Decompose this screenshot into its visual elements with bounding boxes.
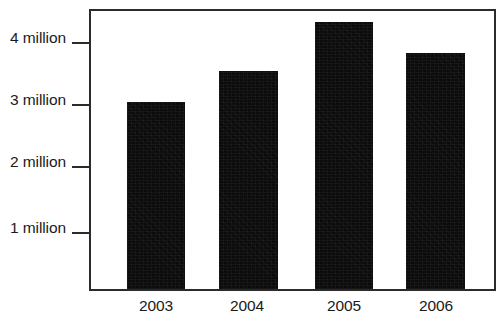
- y-axis-tick-3-million: 3 million: [0, 89, 89, 111]
- x-axis-tick-label: 2004: [230, 297, 264, 315]
- bars-layer: [91, 11, 494, 289]
- y-axis-tick-1-million: 1 million: [0, 217, 89, 239]
- x-axis-tick-2004: 2004: [208, 294, 286, 318]
- y-axis-tick-2-million: 2 million: [0, 151, 89, 173]
- bar-2004: [219, 71, 278, 289]
- y-axis-tick-mark-icon: [72, 42, 89, 44]
- x-axis-tick-2003: 2003: [117, 294, 195, 318]
- x-axis-tick-2005: 2005: [305, 294, 383, 318]
- y-axis-tick-label: 3 million: [10, 91, 66, 109]
- x-axis-tick-label: 2003: [139, 297, 173, 315]
- x-axis-tick-label: 2006: [419, 297, 453, 315]
- y-axis-tick-mark-icon: [72, 104, 89, 106]
- plot-area: [89, 9, 496, 291]
- y-axis-tick-label: 2 million: [10, 153, 66, 171]
- bar-chart: 4 million 3 million 2 million 1 million …: [0, 0, 503, 322]
- y-axis-tick-mark-icon: [72, 166, 89, 168]
- y-axis-tick-mark-icon: [72, 232, 89, 234]
- bar-2005: [315, 22, 373, 289]
- y-axis-tick-4-million: 4 million: [0, 27, 89, 49]
- bar-2006: [406, 53, 465, 289]
- x-axis-tick-label: 2005: [327, 297, 361, 315]
- x-axis-tick-2006: 2006: [397, 294, 475, 318]
- y-axis-tick-label: 1 million: [10, 219, 66, 237]
- y-axis-tick-label: 4 million: [10, 29, 66, 47]
- bar-2003: [127, 102, 185, 289]
